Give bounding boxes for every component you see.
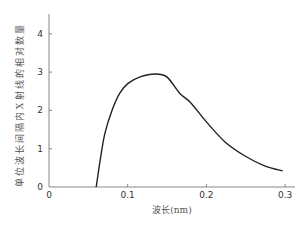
svg-text:隔: 隔 <box>15 123 25 132</box>
x-tick-label: 0.2 <box>199 190 213 200</box>
svg-text:X: X <box>15 102 25 109</box>
svg-text:的: 的 <box>14 69 25 78</box>
x-tick-label: 0 <box>46 190 52 200</box>
y-tick-label: 4 <box>37 29 43 39</box>
svg-text:位: 位 <box>14 167 25 176</box>
svg-text:射: 射 <box>14 91 25 100</box>
y-tick-label: 0 <box>37 182 43 192</box>
y-tick-label: 2 <box>37 105 43 115</box>
x-tick-label: 0.3 <box>278 190 292 200</box>
y-ticks: 01234 <box>37 29 52 192</box>
chart: 01234 00.10.20.3 波长(nm) 单位波长间隔内X射线的相对数量 <box>0 0 305 229</box>
svg-text:单: 单 <box>14 178 25 187</box>
axes <box>49 14 295 187</box>
spectrum-curve <box>96 74 283 187</box>
svg-text:间: 间 <box>14 134 25 143</box>
svg-text:数: 数 <box>14 36 25 45</box>
svg-text:波: 波 <box>14 156 25 165</box>
y-tick-label: 3 <box>37 67 43 77</box>
svg-text:线: 线 <box>14 80 25 89</box>
svg-text:相: 相 <box>14 58 25 67</box>
svg-text:对: 对 <box>14 47 25 56</box>
x-ticks: 00.10.20.3 <box>46 184 292 200</box>
svg-text:量: 量 <box>15 25 25 34</box>
x-axis-title: 波长(nm) <box>152 204 191 215</box>
y-tick-label: 1 <box>37 144 43 154</box>
svg-text:内: 内 <box>14 112 25 121</box>
x-tick-label: 0.1 <box>121 190 135 200</box>
svg-text:长: 长 <box>14 145 25 154</box>
